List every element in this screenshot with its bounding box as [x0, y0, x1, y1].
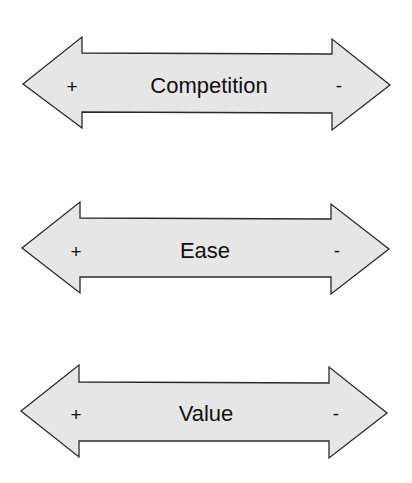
plus-sign: + [66, 76, 77, 97]
arrow-label: Competition [150, 73, 267, 98]
diagram-canvas: + Competition - + Ease - + Value - [0, 0, 412, 483]
minus-sign: - [333, 403, 339, 424]
double-arrow-value: + Value - [21, 365, 387, 458]
minus-sign: - [334, 240, 340, 261]
arrow-label: Ease [180, 238, 230, 263]
plus-sign: + [70, 241, 81, 262]
minus-sign: - [336, 75, 342, 96]
double-arrow-competition: + Competition - [23, 37, 390, 130]
plus-sign: + [70, 404, 81, 425]
double-arrow-ease: + Ease - [22, 202, 389, 294]
arrow-label: Value [179, 401, 234, 426]
